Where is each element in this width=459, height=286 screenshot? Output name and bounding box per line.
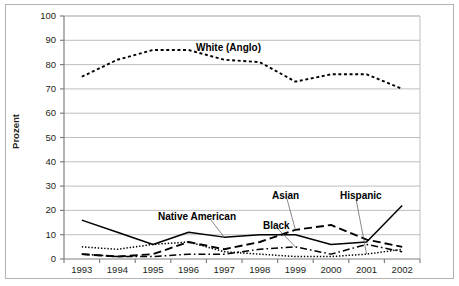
y-tick-label-50: 50 bbox=[26, 133, 56, 143]
series-label-hispanic: Hispanic bbox=[340, 191, 382, 201]
series-line-hispanic bbox=[82, 242, 402, 257]
axes bbox=[60, 16, 420, 263]
series-label-white-anglo: White (Anglo) bbox=[196, 43, 261, 53]
y-tick-label-100: 100 bbox=[26, 11, 56, 21]
x-tick-label-2000: 2000 bbox=[311, 265, 351, 275]
x-tick-label-1994: 1994 bbox=[97, 265, 137, 275]
y-tick-label-30: 30 bbox=[26, 181, 56, 191]
series-label-asian: Asian bbox=[272, 191, 299, 201]
series-line-asian bbox=[82, 225, 402, 257]
y-tick-label-40: 40 bbox=[26, 157, 56, 167]
y-tick-label-90: 90 bbox=[26, 35, 56, 45]
x-tick-label-1995: 1995 bbox=[133, 265, 173, 275]
series-label-black: Black bbox=[263, 221, 290, 231]
x-tick-label-2002: 2002 bbox=[382, 265, 422, 275]
series-line-native-american bbox=[82, 206, 402, 245]
x-tick-label-1993: 1993 bbox=[62, 265, 102, 275]
x-tick-label-1998: 1998 bbox=[240, 265, 280, 275]
x-tick-label-2001: 2001 bbox=[347, 265, 387, 275]
y-tick-label-60: 60 bbox=[26, 108, 56, 118]
series-label-native-american: Native American bbox=[158, 212, 236, 222]
series-lines bbox=[82, 50, 402, 257]
x-tick-label-1996: 1996 bbox=[169, 265, 209, 275]
y-tick-label-80: 80 bbox=[26, 60, 56, 70]
y-axis-title: Prozent bbox=[10, 102, 21, 162]
y-tick-label-70: 70 bbox=[26, 84, 56, 94]
x-tick-label-1997: 1997 bbox=[204, 265, 244, 275]
y-tick-label-20: 20 bbox=[26, 205, 56, 215]
series-line-white-anglo bbox=[82, 50, 402, 89]
y-tick-label-10: 10 bbox=[26, 230, 56, 240]
y-tick-label-0: 0 bbox=[26, 254, 56, 264]
x-tick-label-1999: 1999 bbox=[275, 265, 315, 275]
